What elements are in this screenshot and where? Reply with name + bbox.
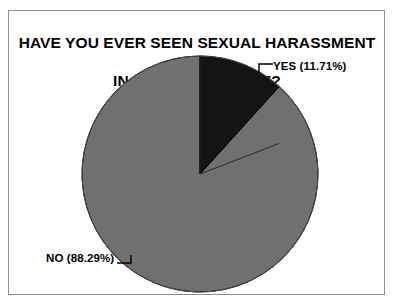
pie-label-no: NO (88.29%): [46, 252, 114, 264]
pie-label-yes: YES (11.71%): [273, 60, 346, 72]
leader-line-yes-icon: [258, 62, 274, 74]
pie-chart-figure: HAVE YOU EVER SEEN SEXUAL HARASSMENT IN …: [0, 0, 396, 306]
leader-line-no-icon: [116, 254, 132, 266]
